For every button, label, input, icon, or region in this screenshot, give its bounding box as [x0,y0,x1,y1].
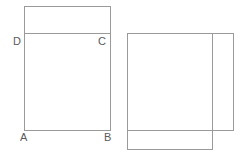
vertex-label-c: C [98,36,106,47]
upper-left-rectangle-shape [25,7,111,34]
geometry-figure-svg [0,0,248,155]
square-abcd-shape [25,34,111,131]
geometry-figure-canvas: D C A B [0,0,248,155]
vertex-label-a: A [20,132,27,143]
vertex-label-b: B [104,132,111,143]
vertex-label-d: D [13,36,21,47]
right-lower-rectangle-shape [128,34,213,150]
right-upper-rectangle-shape [128,34,234,131]
